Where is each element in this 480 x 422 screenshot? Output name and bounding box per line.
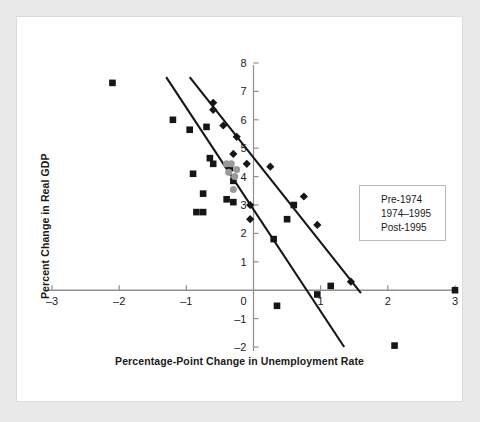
chart-legend: Pre-1974 1974–1995 Post-1995 [359, 185, 446, 241]
y-tick-label: –1 [234, 313, 246, 325]
x-tick-label: –2 [113, 295, 125, 307]
legend-label: 1974–1995 [381, 208, 431, 219]
data-point-square [200, 190, 207, 197]
y-tick-label: 3 [240, 199, 246, 211]
y-tick-label: 8 [240, 57, 246, 69]
legend-label: Pre-1974 [381, 194, 422, 205]
data-point-square [193, 209, 200, 216]
data-point-square [109, 80, 116, 87]
data-point-square [274, 303, 281, 310]
data-point-square [200, 209, 207, 216]
square-marker-icon [367, 209, 376, 218]
y-tick-label: 7 [240, 85, 246, 97]
data-point-square [203, 124, 210, 131]
x-tick-label: 3 [452, 295, 458, 307]
legend-item-pre-1974[interactable]: Pre-1974 [367, 192, 438, 206]
data-point-circle [233, 166, 240, 173]
data-point-square [327, 283, 334, 290]
data-point-diamond [243, 160, 251, 168]
data-point-diamond [209, 106, 217, 114]
lower-trend-line [166, 77, 344, 347]
legend-item-post-1995[interactable]: Post-1995 [367, 220, 438, 234]
x-tick-label: –1 [180, 295, 192, 307]
data-point-square [230, 199, 237, 206]
diamond-marker-icon [367, 195, 376, 204]
data-point-square [270, 236, 277, 243]
data-point-diamond [266, 163, 274, 171]
data-point-square [210, 161, 217, 168]
data-point-square [284, 216, 291, 223]
x-tick-label: 2 [385, 295, 391, 307]
data-point-circle [231, 173, 238, 180]
data-point-circle [225, 169, 232, 176]
data-point-square [207, 155, 214, 162]
data-point-diamond [313, 221, 321, 229]
data-point-diamond [300, 192, 308, 200]
data-point-diamond [209, 99, 217, 107]
y-tick-label: 1 [240, 256, 246, 268]
data-point-square [170, 117, 177, 124]
y-tick-label: 6 [240, 114, 246, 126]
data-point-square [314, 291, 321, 298]
chart-panel: –2–1123456780–3–2–1123 Percent Change in… [17, 17, 462, 401]
data-point-square [190, 170, 197, 177]
data-point-square [391, 342, 398, 349]
y-tick-label: 2 [240, 227, 246, 239]
y-axis-title: Percent Change in Real GDP [39, 153, 51, 299]
data-point-circle [228, 160, 235, 167]
data-point-diamond [229, 150, 237, 158]
data-point-square [452, 287, 459, 294]
y-tick-label-zero: 0 [240, 295, 246, 307]
data-point-square [186, 126, 193, 133]
x-axis-title: Percentage-Point Change in Unemployment … [17, 355, 462, 367]
data-point-square [291, 202, 298, 209]
data-point-square [223, 196, 230, 203]
legend-item-1974-1995[interactable]: 1974–1995 [367, 206, 438, 220]
legend-label: Post-1995 [381, 222, 427, 233]
y-tick-label: 4 [240, 171, 246, 183]
y-tick-label: –2 [234, 341, 246, 353]
circle-marker-icon [367, 223, 376, 232]
data-point-circle [230, 186, 237, 193]
